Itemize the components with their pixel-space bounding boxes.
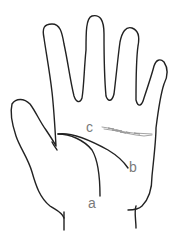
cropped-caption bbox=[4, 240, 181, 247]
line-c bbox=[102, 127, 152, 136]
label-a: a bbox=[88, 196, 96, 210]
palm-diagram: c b a bbox=[0, 0, 181, 247]
label-b: b bbox=[129, 160, 137, 174]
label-c: c bbox=[86, 120, 93, 134]
hand-outline bbox=[11, 16, 167, 218]
wrist-right-line bbox=[135, 206, 136, 228]
